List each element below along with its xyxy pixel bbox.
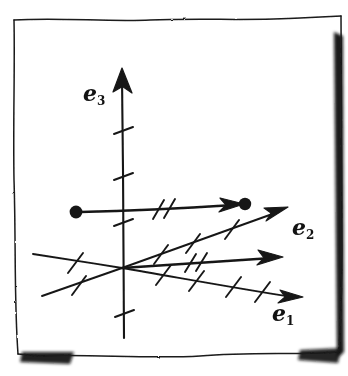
axis-e3 bbox=[113, 68, 134, 338]
paper-shadow bbox=[20, 32, 344, 364]
sketch-canvas bbox=[0, 0, 348, 376]
vector-tail-dot bbox=[70, 206, 83, 219]
axis-label-e1-sub: 1 bbox=[286, 314, 294, 328]
axis-label-e2-base: e bbox=[292, 214, 306, 240]
axis-label-e3: e3 bbox=[83, 82, 105, 107]
axis-label-e2-sub: 2 bbox=[306, 228, 314, 242]
axis-e2 bbox=[42, 207, 288, 296]
sketch-figure: e3 e2 e1 bbox=[0, 0, 348, 376]
vector-head-dot bbox=[239, 198, 251, 210]
axis-label-e3-sub: 3 bbox=[97, 94, 105, 108]
axis-label-e1: e1 bbox=[272, 302, 294, 327]
origin-vector bbox=[122, 250, 283, 272]
axis-label-e1-base: e bbox=[272, 300, 286, 326]
translated-vector bbox=[70, 198, 252, 219]
axis-label-e2: e2 bbox=[292, 216, 314, 241]
axis-label-e3-base: e bbox=[83, 80, 97, 106]
